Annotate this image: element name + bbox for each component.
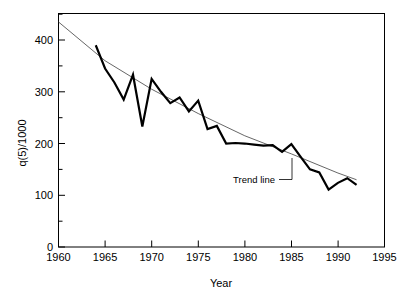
x-tick-label: 1985 [279,251,303,263]
x-tick-label: 1995 [372,251,396,263]
x-tick-label: 1980 [233,251,257,263]
x-tick-label: 1965 [93,251,117,263]
y-axis-minor-ticks [59,14,63,221]
trend-line-annotation: Trend line [233,174,275,185]
y-axis-title: q(5)/1000 [16,119,28,166]
x-tick-label: 1960 [46,251,70,263]
x-tick-label: 1990 [326,251,350,263]
x-tick-label: 1970 [139,251,163,263]
y-tick-labels: 0 100 200 300 400 [35,34,53,253]
y-tick-label: 200 [35,138,53,150]
plot-frame [59,14,385,248]
data-series-line [96,45,357,189]
y-tick-label: 100 [35,189,53,201]
x-tick-label: 1975 [186,251,210,263]
y-axis-major-ticks [59,40,66,247]
chart-figure: 0 100 200 300 400 1960 1965 1970 1975 19… [0,0,415,298]
x-axis-ticks [59,241,385,248]
y-tick-label: 400 [35,34,53,46]
y-tick-label: 300 [35,86,53,98]
x-tick-labels: 1960 1965 1970 1975 1980 1985 1990 1995 [46,251,396,263]
trend-line-series [59,22,357,180]
line-chart: 0 100 200 300 400 1960 1965 1970 1975 19… [0,0,415,298]
x-axis-title: Year [210,277,233,289]
trend-line-leader-icon [279,158,292,180]
